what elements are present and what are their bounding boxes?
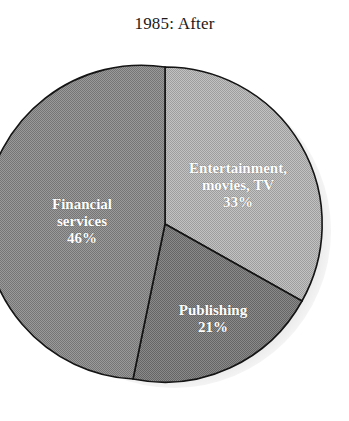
pie-slice-financial[interactable] bbox=[0, 65, 165, 379]
pie-chart-canvas bbox=[0, 40, 349, 410]
chart-title: 1985: After bbox=[0, 14, 349, 34]
pie-chart-figure: 1985: After bbox=[0, 0, 349, 421]
